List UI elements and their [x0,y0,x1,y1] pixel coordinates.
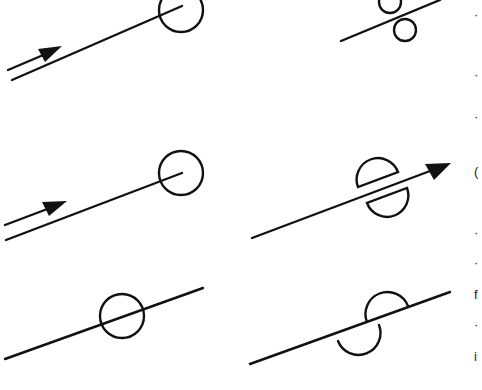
connector-line [5,288,203,359]
edge-text-fragment: i [474,350,477,363]
edge-text-fragment: f [474,288,478,301]
connector-line [12,6,182,80]
upper-arc-icon [365,292,408,322]
upper-half-circle-icon [357,158,398,187]
symbol-diagram [0,0,482,390]
edge-text-fragment: · [474,8,478,21]
edge-text-fragment: · [474,318,478,331]
connector-line [6,173,182,240]
edge-text-fragment: · [474,226,478,239]
connector-line [341,0,440,41]
arrowhead-icon [42,201,67,216]
edge-text-fragment: · [474,68,478,81]
symbol-top-left [8,0,203,80]
symbol-bottom-right [250,292,450,364]
flow-arrow-shaft [5,208,50,225]
edge-text-fragment: · [474,110,478,123]
symbol-middle-left [5,151,203,240]
symbol-top-right [341,0,440,41]
arrow-line [252,168,438,238]
circle-terminal-icon [159,0,203,32]
symbol-bottom-left [5,288,203,359]
lower-small-circle-icon [394,19,416,41]
symbol-middle-right [252,158,451,238]
upper-small-circle-icon [379,0,401,13]
edge-text-fragment: ( [474,165,478,178]
edge-text-fragment: · [474,256,478,269]
